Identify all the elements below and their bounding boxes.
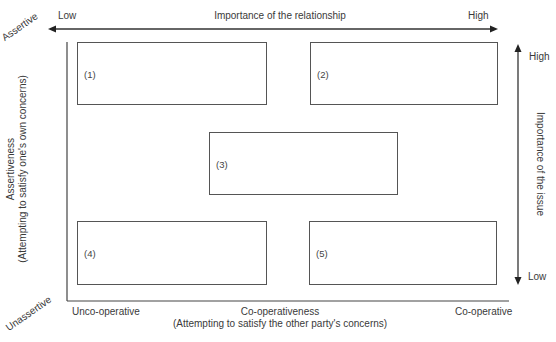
issue-axis-title: Importance of the issue — [534, 99, 546, 229]
cooperativeness-axis-subtitle: (Attempting to satisfy the other party's… — [150, 318, 410, 330]
box-5: (5) — [309, 221, 497, 285]
relationship-axis-arrow — [48, 26, 498, 33]
box-2-label: (2) — [317, 68, 329, 79]
box-5-label: (5) — [316, 248, 328, 259]
relationship-low-label: Low — [58, 10, 76, 22]
unco-operative-label: Unco-operative — [72, 306, 140, 318]
box-3-label: (3) — [216, 158, 228, 169]
relationship-axis-title: Importance of the relationship — [210, 10, 350, 22]
co-operative-label: Co-operative — [455, 306, 512, 318]
assertiveness-axis-title: Assertiveness (Attempting to satisfy one… — [5, 59, 31, 279]
box-2: (2) — [310, 42, 498, 105]
assertiveness-subtitle: (Attempting to satisfy one's own concern… — [17, 59, 29, 279]
relationship-high-label: High — [468, 10, 489, 22]
issue-low-label: Low — [528, 271, 546, 283]
assertiveness-title: Assertiveness — [5, 59, 17, 279]
box-1: (1) — [77, 42, 267, 105]
issue-axis-arrow — [515, 44, 522, 285]
cooperativeness-axis-title: Co-operativeness — [170, 306, 390, 318]
box-1-label: (1) — [84, 68, 96, 79]
box-4: (4) — [77, 221, 267, 285]
issue-high-label: High — [529, 51, 550, 63]
box-4-label: (4) — [84, 248, 96, 259]
box-3: (3) — [209, 132, 398, 195]
